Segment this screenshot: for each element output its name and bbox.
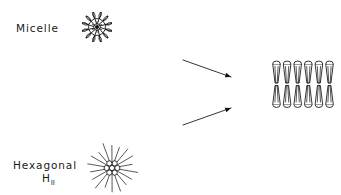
- bilayer-lipid: [315, 61, 323, 83]
- bilayer-lipid: [283, 86, 291, 108]
- bilayer-lipid-body: [294, 86, 302, 105]
- hexagonal-lipid-tail: [116, 156, 132, 166]
- hexagonal-lipid-tail: [117, 169, 138, 173]
- bilayer-lipid: [315, 86, 323, 108]
- bilayer-lipid-body: [273, 86, 281, 105]
- arrows: [183, 60, 231, 125]
- bilayer-lipid-head: [294, 105, 302, 108]
- arrow-head: [225, 73, 231, 78]
- bilayer-lipid-head: [326, 105, 334, 108]
- bilayer-lipid-head: [305, 105, 313, 108]
- hexagonal-lipid-tail: [93, 171, 108, 180]
- bilayer-lipid-body: [315, 86, 323, 105]
- hexagonal-lipid-tail: [116, 170, 131, 179]
- bilayer-lipid-body: [305, 64, 313, 83]
- bilayer-lipid-head: [283, 61, 291, 64]
- bilayer-lipid: [283, 61, 291, 83]
- bilayer-lipid: [294, 61, 302, 83]
- bilayer-lipid-body: [294, 64, 302, 83]
- arrow-shaft: [183, 60, 231, 77]
- arrow-head: [225, 108, 231, 113]
- figure-canvas: Micelle Hexagonal HII: [0, 0, 341, 195]
- hexagonal-lipid-tail: [91, 156, 107, 165]
- arrow-shaft: [183, 108, 231, 125]
- hexagonal-water-core: [112, 161, 117, 166]
- bilayer-lipid-head: [305, 61, 313, 64]
- bilayer-lipid-head: [315, 61, 323, 64]
- bilayer-lipid-head: [315, 105, 323, 108]
- bilayer-lipid-body: [326, 64, 334, 83]
- bilayer-lipid-body: [326, 86, 334, 105]
- bilayer-lipid: [294, 86, 302, 108]
- bilayer-lipid: [273, 61, 281, 83]
- bilayer-lipid-body: [315, 64, 323, 83]
- bilayer-lipid: [273, 86, 281, 108]
- bilayer-lipid-body: [283, 64, 291, 83]
- bilayer-lipid-head: [273, 61, 281, 64]
- micelle-structure: [82, 12, 112, 42]
- bilayer-lipid-body: [273, 64, 281, 83]
- bilayer-structure: [273, 61, 334, 107]
- bilayer-lipid-head: [294, 61, 302, 64]
- bilayer-lipid-body: [305, 86, 313, 105]
- micelle-core: [95, 25, 99, 29]
- bilayer-lipid-head: [283, 105, 291, 108]
- hexagonal-water-core: [112, 170, 117, 175]
- arrow-micelle-to-bilayer: [183, 60, 231, 77]
- hexagonal-water-core: [107, 161, 112, 166]
- bilayer-lipid: [305, 61, 313, 83]
- bilayer-lipid-head: [273, 105, 281, 108]
- diagram-artwork: [0, 0, 341, 195]
- bilayer-lipid: [326, 86, 334, 108]
- bilayer-lipid-body: [283, 86, 291, 105]
- bilayer-lipid: [326, 61, 334, 83]
- bilayer-lipid: [305, 86, 313, 108]
- hexagonal-water-core: [107, 170, 112, 175]
- hexagonal-structure: [88, 144, 138, 192]
- arrow-hexagonal-to-bilayer: [183, 108, 231, 125]
- bilayer-lipid-head: [326, 61, 334, 64]
